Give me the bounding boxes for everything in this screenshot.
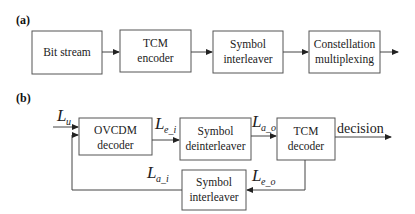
block-symbol-interleaver-a-line2: interleaver — [223, 53, 272, 65]
block-constellation-line2: multiplexing — [315, 53, 374, 66]
svg-text:L: L — [146, 163, 156, 182]
block-bit-stream-text: Bit stream — [43, 46, 91, 58]
block-tcm-encoder: TCM encoder — [120, 30, 191, 72]
svg-text:e_i: e_i — [164, 124, 176, 135]
block-deinterleaver-line2: deinterleaver — [185, 140, 245, 152]
signal-L-e-i: L e_i — [154, 114, 176, 135]
signal-L-a-i: L a_i — [146, 163, 169, 184]
diagram-canvas: (a) Bit stream TCM encoder Symbol interl… — [0, 0, 415, 214]
decision-label: decision — [337, 121, 384, 136]
block-tcm-decoder-line2: decoder — [288, 140, 325, 152]
svg-text:e_o: e_o — [261, 176, 275, 187]
panel-b-label: (b) — [16, 91, 31, 105]
block-deinterleaver-line1: Symbol — [198, 125, 234, 138]
block-ovcdm-line1: OVCDM — [94, 124, 137, 136]
block-symbol-interleaver-a-line1: Symbol — [230, 38, 266, 51]
block-tcm-decoder: TCM decoder — [277, 118, 335, 160]
svg-text:L: L — [251, 166, 261, 185]
block-tcm-encoder-line1: TCM — [143, 37, 168, 49]
block-interleaver-b-line1: Symbol — [196, 176, 232, 189]
block-symbol-interleaver-b: Symbol interleaver — [182, 170, 246, 210]
block-symbol-deinterleaver: Symbol deinterleaver — [180, 118, 251, 160]
block-constellation-multiplexing: Constellation multiplexing — [309, 31, 380, 73]
block-constellation-line1: Constellation — [314, 38, 376, 50]
block-ovcdm-line2: decoder — [97, 139, 134, 151]
svg-text:a_i: a_i — [156, 173, 169, 184]
block-ovcdm-decoder: OVCDM decoder — [79, 118, 152, 155]
svg-text:L: L — [251, 112, 261, 131]
block-bit-stream: Bit stream — [32, 31, 102, 74]
block-interleaver-b-line2: interleaver — [189, 191, 238, 203]
signal-L-e-o: L e_o — [251, 166, 275, 187]
panel-a-label: (a) — [16, 13, 30, 27]
svg-text:u: u — [66, 116, 71, 127]
block-symbol-interleaver-a: Symbol interleaver — [213, 31, 283, 73]
signal-L-u: L u — [56, 106, 71, 127]
block-tcm-encoder-line2: encoder — [137, 52, 174, 64]
svg-text:L: L — [56, 106, 66, 125]
block-tcm-decoder-line1: TCM — [294, 125, 319, 137]
svg-text:L: L — [154, 114, 164, 133]
svg-text:a_o: a_o — [261, 122, 276, 133]
signal-L-a-o: L a_o — [251, 112, 276, 133]
